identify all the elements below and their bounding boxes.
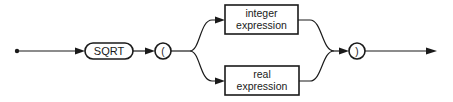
open-paren-terminal: ( [155,43,171,59]
integer-expression-line2: expression [236,19,287,31]
arrow-head-icon [339,48,349,55]
syntax-diagram: SQRT ( integer expression real expressio… [0,0,453,102]
close-paren-label: ) [355,46,358,57]
close-paren-terminal: ) [349,43,365,59]
branch-bottom-curve [190,51,218,81]
sqrt-terminal: SQRT [85,43,133,59]
merge-bottom-curve [299,51,334,81]
branch-top-curve [190,20,218,51]
real-expression-line2: expression [237,80,288,92]
integer-expression-box: integer expression [225,5,298,34]
arrow-head-icon [75,48,85,55]
arrow-head-icon [215,17,225,24]
real-expression-line1: real [253,68,271,80]
sqrt-label: SQRT [94,45,125,57]
exit-arrow-icon [426,48,437,55]
real-expression-box: real expression [225,66,299,95]
arrow-head-icon [215,78,225,85]
arrow-head-icon [145,48,155,55]
integer-expression-line1: integer [245,7,278,19]
merge-top-curve [298,20,334,51]
